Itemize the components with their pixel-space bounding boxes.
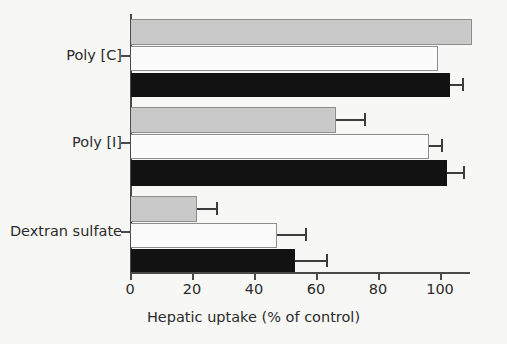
bar-poly-c-white [131, 46, 438, 71]
bar-poly-i-white [131, 134, 429, 159]
bar-poly-c-black [131, 73, 450, 97]
x-tick-20 [192, 272, 194, 280]
bar-poly-i-gray [131, 107, 336, 133]
y-label-dextran-sulfate: Dextran sulfate [10, 223, 122, 239]
bar-poly-c-gray [131, 19, 472, 45]
x-tick-100 [440, 272, 442, 280]
errorbar-dextran-sulfate-white [277, 234, 305, 236]
plot-area [131, 14, 441, 272]
x-axis-title: Hepatic uptake (% of control) [0, 309, 507, 325]
x-tick-label-40: 40 [245, 281, 263, 297]
x-tick-40 [254, 272, 256, 280]
y-label-poly-i: Poly [I] [72, 134, 122, 150]
y-tick-poly-i [121, 142, 130, 144]
x-tick-80 [378, 272, 380, 280]
errorbar-cap-dextran-sulfate-black [326, 254, 328, 267]
errorbar-cap-poly-i-black [463, 166, 465, 179]
bar-dextran-sulfate-white [131, 223, 277, 248]
errorbar-cap-dextran-sulfate-white [305, 228, 307, 241]
errorbar-poly-c-black [450, 84, 462, 86]
errorbar-cap-poly-c-black [462, 78, 464, 91]
bar-chart: Poly [C] Poly [I] Dextran sulfate [0, 0, 507, 344]
bar-poly-i-black [131, 160, 447, 186]
errorbar-poly-i-gray [336, 119, 364, 121]
y-tick-poly-c [121, 55, 130, 57]
errorbar-dextran-sulfate-gray [197, 208, 216, 210]
errorbar-cap-dextran-sulfate-gray [216, 202, 218, 215]
x-tick-label-20: 20 [183, 281, 201, 297]
bar-dextran-sulfate-gray [131, 196, 197, 222]
x-axis-spine: 0 20 40 60 80 100 [130, 272, 470, 274]
x-tick-60 [316, 272, 318, 280]
x-tick-label-0: 0 [125, 281, 134, 297]
errorbar-poly-i-black [447, 172, 463, 174]
errorbar-cap-poly-i-gray [364, 113, 366, 126]
errorbar-cap-poly-i-white [441, 139, 443, 152]
y-label-poly-c: Poly [C] [66, 47, 122, 63]
y-tick-dextran-sulfate [121, 231, 130, 233]
x-tick-label-100: 100 [426, 281, 454, 297]
errorbar-poly-i-white [429, 145, 441, 147]
x-tick-label-60: 60 [307, 281, 325, 297]
x-tick-label-80: 80 [369, 281, 387, 297]
x-tick-0 [130, 272, 132, 280]
errorbar-dextran-sulfate-black [295, 260, 326, 262]
bar-dextran-sulfate-black [131, 249, 295, 274]
y-axis-labels: Poly [C] Poly [I] Dextran sulfate [0, 0, 122, 344]
